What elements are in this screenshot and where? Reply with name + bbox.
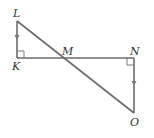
label-N: N	[129, 45, 140, 58]
label-O: O	[130, 116, 139, 129]
right-angle-mark-K	[17, 51, 24, 58]
label-K: K	[11, 60, 21, 73]
parallel-arrow-NO	[132, 81, 137, 86]
right-angle-mark-N	[127, 58, 134, 65]
label-L: L	[12, 7, 20, 20]
geometry-diagram: L K M N O	[0, 0, 154, 138]
label-M: M	[61, 45, 74, 58]
parallel-arrow-LK	[15, 35, 20, 40]
segment-LO	[17, 21, 134, 113]
